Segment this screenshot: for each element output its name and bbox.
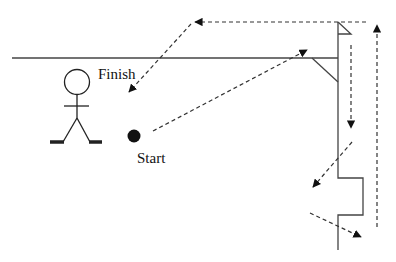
arrow-down-left xyxy=(313,142,352,187)
wall-top-triangle xyxy=(338,22,351,34)
figure-head xyxy=(65,70,90,95)
wall-structure xyxy=(12,22,363,250)
arrow-start-to-corner xyxy=(153,50,307,131)
route-arrows xyxy=(129,22,377,237)
arrow-down-right xyxy=(310,213,361,237)
finish-label: Finish xyxy=(98,66,136,82)
route-diagram: Finish Start xyxy=(0,0,396,262)
stick-figure-icon xyxy=(50,70,102,143)
start-dot xyxy=(128,130,141,143)
wall-diagonal-brace xyxy=(312,58,338,82)
figure-left-leg xyxy=(63,118,77,142)
vertical-wall xyxy=(338,22,363,250)
start-label: Start xyxy=(137,150,166,166)
figure-right-leg xyxy=(77,118,90,142)
